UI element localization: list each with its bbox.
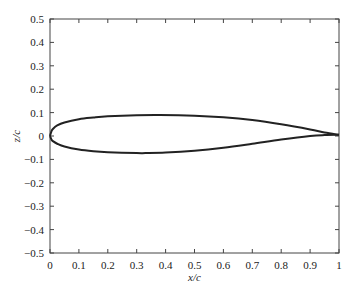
x-axis-label: x/c xyxy=(187,271,201,283)
y-tick-label: −0.1 xyxy=(24,153,44,165)
x-tick-label: 0.5 xyxy=(188,259,202,271)
y-tick-label: −0.4 xyxy=(24,224,44,236)
airfoil-upper-surface xyxy=(50,115,339,136)
x-tick-label: 0 xyxy=(47,259,53,271)
y-tick-label: −0.2 xyxy=(24,177,44,189)
x-tick-label: 0.2 xyxy=(101,259,115,271)
y-tick-label: −0.5 xyxy=(24,247,44,259)
y-tick-label: −0.3 xyxy=(24,200,44,212)
y-tick-label: 0.2 xyxy=(30,83,44,95)
chart-svg: 00.10.20.30.40.50.60.70.80.910.50.40.30.… xyxy=(0,0,360,296)
y-tick-label: 0.1 xyxy=(30,107,44,119)
x-tick-label: 0.1 xyxy=(72,259,86,271)
x-tick-label: 0.6 xyxy=(217,259,231,271)
y-tick-label: 0.4 xyxy=(30,36,44,48)
airfoil-lower-surface xyxy=(50,135,339,153)
y-tick-label: 0.3 xyxy=(30,60,44,72)
y-axis-label: z/c xyxy=(10,130,22,143)
x-tick-label: 0.8 xyxy=(274,259,288,271)
x-tick-label: 0.9 xyxy=(303,259,317,271)
x-tick-label: 1 xyxy=(336,259,342,271)
x-tick-label: 0.7 xyxy=(245,259,259,271)
y-tick-label: 0.5 xyxy=(30,13,44,25)
airfoil-chart: 00.10.20.30.40.50.60.70.80.910.50.40.30.… xyxy=(0,0,360,296)
plot-frame xyxy=(50,19,339,253)
y-tick-label: 0 xyxy=(39,130,45,142)
x-tick-label: 0.3 xyxy=(130,259,144,271)
x-tick-label: 0.4 xyxy=(159,259,173,271)
